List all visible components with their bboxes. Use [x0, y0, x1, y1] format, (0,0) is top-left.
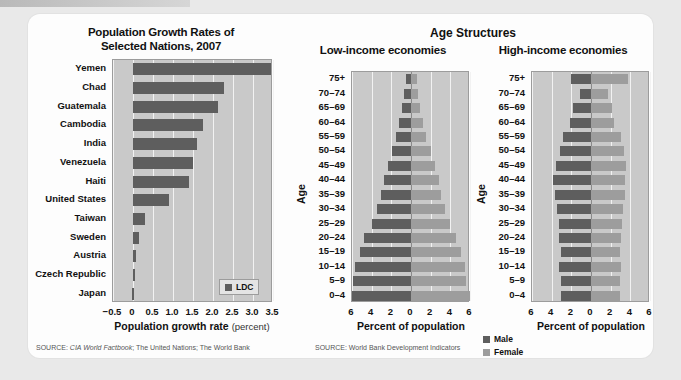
chart1-plot-area [112, 59, 272, 302]
male-swatch-icon [483, 336, 490, 343]
chart3-x-axis-title: Percent of population [511, 320, 671, 332]
chart2-category-label: 70–74 [293, 87, 345, 98]
chart3-gridline [552, 72, 553, 301]
chart2-bar-male [388, 161, 411, 171]
chart3-category-label: 40–44 [473, 173, 525, 184]
chart3-category-label: 35–39 [473, 188, 525, 199]
chart3-category-label: 50–54 [473, 144, 525, 155]
chart3-bar-male [561, 276, 591, 286]
chart2-gridline [352, 72, 353, 301]
chart3-bar-male [571, 74, 591, 84]
chart3-bar-female [591, 118, 614, 128]
chart2-category-label: 5–9 [293, 274, 345, 285]
chart2-bar-male [352, 291, 411, 301]
chart2-category-label: 15–19 [293, 245, 345, 256]
chart2-bar-male [364, 233, 411, 243]
chart1-gridline [193, 60, 194, 301]
chart3-category-label: 65–69 [473, 101, 525, 112]
chart2-category-label: 60–64 [293, 116, 345, 127]
chart1-bar [132, 288, 134, 300]
chart3-gridline [532, 72, 533, 301]
chart3-bar-female [591, 247, 620, 257]
chart1-source-italic: CIA World Factbook [70, 344, 132, 351]
chart2-bar-female [411, 161, 435, 171]
chart1-bar [133, 176, 189, 188]
chart3-bar-female [591, 190, 625, 200]
chart2-bar-female [411, 132, 426, 142]
chart1-x-axis-title-main: Population growth rate [114, 320, 228, 332]
chart2-bar-male [384, 175, 411, 185]
chart1-bar [133, 194, 169, 206]
chart2-bar-female [411, 118, 423, 128]
chart2-plot-area [351, 71, 469, 302]
chart3-gridline [650, 72, 651, 301]
chart1-gridline [273, 60, 274, 301]
chart1-gridline [233, 60, 234, 301]
chart1-legend: LDC [219, 279, 259, 295]
chart1-source: SOURCE: CIA World Factbook; The United N… [36, 344, 250, 351]
chart1-bar [133, 213, 145, 225]
chart1-bar [133, 269, 135, 281]
chart3-plot-area [531, 71, 649, 302]
chart2-title: Low-income economies [293, 44, 473, 58]
chart3-bar-female [591, 89, 608, 99]
chart3-category-label: 75+ [473, 72, 525, 83]
legend-label-male: Male [494, 334, 513, 344]
chart1-bar [133, 82, 224, 94]
chart3-bar-female [591, 132, 621, 142]
chart1-gridline [253, 60, 254, 301]
legend-label-female: Female [494, 347, 523, 357]
chart3-bar-female [591, 161, 626, 171]
chart2-source: SOURCE: World Bank Development Indicator… [315, 344, 460, 351]
chart2-category-label: 65–69 [293, 101, 345, 112]
female-swatch-icon [483, 349, 490, 356]
chart3-legend: Male Female [483, 334, 523, 360]
chart3-title: High-income economies [473, 44, 653, 58]
chart2-bar-male [381, 190, 411, 200]
chart2-category-label: 10–14 [293, 260, 345, 271]
chart3-bar-male [559, 233, 591, 243]
chart2-bar-female [411, 190, 441, 200]
chart1-category-label: Austria [28, 249, 106, 260]
chart1-category-label: Venezuela [28, 156, 106, 167]
legend-row-female: Female [483, 347, 523, 357]
chart1-category-label: Czech Republic [28, 268, 106, 279]
chart2-bar-male [355, 262, 411, 272]
legend-row-male: Male [483, 334, 523, 344]
chart-panel-growth-rates: Population Growth Rates of Selected Nati… [28, 14, 293, 358]
chart1-bar [133, 250, 136, 262]
chart2-bar-male [402, 103, 411, 113]
chart2-bar-male [392, 146, 411, 156]
chart3-category-label: 10–14 [473, 260, 525, 271]
chart1-bar [133, 232, 139, 244]
chart1-title-line1: Population Growth Rates of [46, 26, 276, 40]
chart3-bar-male [553, 175, 591, 185]
chart2-bar-female [411, 247, 461, 257]
chart2-bar-female [411, 276, 466, 286]
chart1-x-axis-title-unit: (percent) [232, 321, 270, 332]
top-decoration-strip [0, 0, 190, 7]
chart1-bar [133, 157, 193, 169]
chart3-category-label: 30–34 [473, 202, 525, 213]
chart1-legend-label-ldc: LDC [236, 282, 253, 292]
chart1-category-label: Haiti [28, 175, 106, 186]
chart3-category-label: 55–59 [473, 130, 525, 141]
chart3-bar-female [591, 291, 620, 301]
chart3-bar-female [591, 103, 612, 113]
chart3-x-tick-label: 6 [637, 306, 661, 317]
chart1-gridline [113, 60, 114, 301]
chart3-category-label: 15–19 [473, 245, 525, 256]
chart3-bar-female [591, 233, 621, 243]
chart3-category-label: 5–9 [473, 274, 525, 285]
chart2-category-label: 55–59 [293, 130, 345, 141]
chart2-bar-female [411, 291, 470, 301]
chart3-bar-male [560, 146, 591, 156]
chart3-bar-male [561, 247, 591, 257]
chart3-bar-male [563, 132, 591, 142]
chart2-bar-male [360, 247, 411, 257]
chart3-bar-male [570, 118, 591, 128]
chart3-bar-male [556, 161, 591, 171]
chart2-gridline [470, 72, 471, 301]
chart2-category-label: 30–34 [293, 202, 345, 213]
chart2-category-label: 75+ [293, 72, 345, 83]
